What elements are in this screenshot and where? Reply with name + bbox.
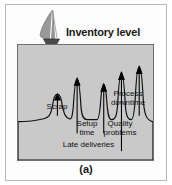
callout-label-process-downtime: Process downtime <box>106 89 150 107</box>
callout-label-scrap: Scrap <box>39 102 75 111</box>
callout-label-late-deliveries: Late deliveries <box>41 140 136 149</box>
inventory-water-panel: Scrap Setup time Quality problems Proces… <box>17 44 154 161</box>
figure-caption: (a) <box>0 163 172 175</box>
callout-label-setup-time: Setup time <box>72 119 102 137</box>
page-title: Inventory level <box>66 26 161 38</box>
inventory-level-figure: Inventory level <box>0 0 172 185</box>
callout-label-quality-problems: Quality problems <box>102 119 138 137</box>
